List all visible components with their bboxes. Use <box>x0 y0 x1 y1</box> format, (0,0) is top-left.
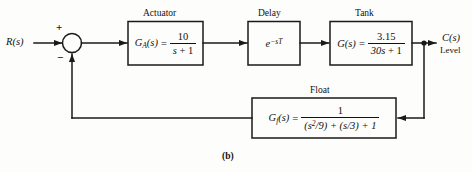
transfer-function-delay: e−sT <box>248 22 300 66</box>
transfer-function-float: Gf(s) = 1 (s2/9) + (s/3) + 1 <box>252 98 396 138</box>
tank-lhs: G <box>337 38 345 49</box>
output-signal-label: C(s) <box>442 33 460 44</box>
block-title-actuator: Actuator <box>143 9 176 19</box>
block-title-float: Float <box>310 86 330 96</box>
delay-exponent: −sT <box>270 37 282 46</box>
float-equals: = <box>292 113 298 124</box>
tank-den-rest: + 1 <box>385 45 401 56</box>
tank-numerator: 3.15 <box>374 31 398 43</box>
figure-caption: (b) <box>222 152 234 162</box>
transfer-function-actuator: GA(s) = 10 s + 1 <box>128 22 203 66</box>
input-signal-label: R(s) <box>6 37 24 48</box>
float-numerator: 1 <box>335 105 346 117</box>
tank-den-var: 30s <box>371 45 386 56</box>
block-title-tank: Tank <box>355 9 374 19</box>
output-sublabel: Level <box>440 46 461 55</box>
block-title-delay: Delay <box>258 9 281 19</box>
delay-expression: e−sT <box>266 37 283 49</box>
float-den-part1: (s <box>304 120 312 131</box>
float-lhs-arg: (s) <box>278 112 289 123</box>
float-denominator: (s2/9) + (s/3) + 1 <box>301 117 379 131</box>
float-fraction: 1 (s2/9) + (s/3) + 1 <box>301 105 379 131</box>
control-system-block-diagram: R(s) + − Actuator GA(s) = 10 s + 1 Delay… <box>0 0 472 172</box>
transfer-function-tank: G(s) = 3.15 30s + 1 <box>330 22 412 66</box>
tank-equals: = <box>359 38 365 49</box>
actuator-equals: = <box>161 38 167 49</box>
float-lhs: G <box>269 112 277 123</box>
actuator-numerator: 10 <box>175 31 192 43</box>
tank-denominator: 30s + 1 <box>368 43 405 56</box>
sum-plus-sign: + <box>56 22 62 33</box>
actuator-lhs-arg: (s) <box>147 37 158 48</box>
float-den-part2: /9) + (s/3) + 1 <box>316 120 377 131</box>
summing-junction <box>63 34 82 53</box>
tank-fraction: 3.15 30s + 1 <box>368 31 405 56</box>
tank-lhs-arg: (s) <box>345 38 356 49</box>
actuator-denominator: s + 1 <box>170 43 197 56</box>
actuator-den-rest: + 1 <box>177 45 193 56</box>
sum-minus-sign: − <box>57 52 63 63</box>
actuator-fraction: 10 s + 1 <box>170 31 197 56</box>
